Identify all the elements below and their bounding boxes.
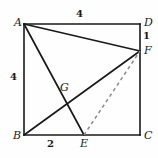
- segment-EF-line: [84, 51, 140, 135]
- segment-AE-line: [24, 24, 84, 135]
- vertex-label-A: A: [14, 17, 22, 28]
- geometry-figure: A D F B C E G 4 4 1 2: [0, 0, 158, 158]
- measurement-df-segment-length: 1: [143, 31, 150, 41]
- measurement-left-side-length: 4: [10, 72, 17, 82]
- segment-AF-line: [24, 24, 140, 51]
- vertex-label-B: B: [13, 130, 21, 141]
- measurement-be-segment-length: 2: [47, 139, 54, 149]
- figure-canvas: [0, 0, 158, 158]
- vertex-label-E: E: [80, 138, 88, 149]
- vertex-label-G: G: [60, 82, 69, 93]
- measurement-top-side-length: 4: [76, 9, 83, 19]
- segment-BF-line: [24, 51, 140, 135]
- vertex-label-F: F: [144, 45, 152, 56]
- vertex-label-D: D: [144, 17, 153, 28]
- vertex-label-C: C: [144, 130, 152, 141]
